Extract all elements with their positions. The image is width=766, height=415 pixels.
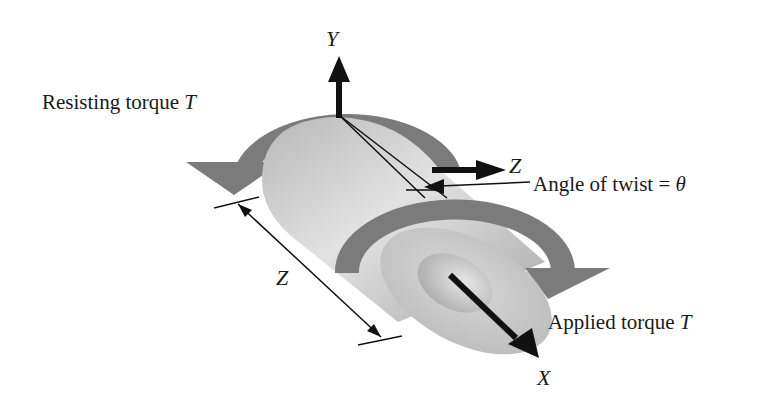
length-z-label: Z: [276, 267, 288, 289]
resisting-torque-text: Resisting torque: [42, 90, 179, 114]
theta-symbol: θ: [676, 172, 686, 196]
applied-torque-text: Applied torque: [548, 310, 675, 334]
applied-torque-label: Applied torque T: [548, 312, 692, 333]
angle-pointer: [424, 179, 530, 194]
y-axis-arrow: [328, 56, 350, 118]
angle-of-twist-label: Angle of twist = θ: [533, 174, 686, 195]
x-axis-label: X: [537, 367, 550, 389]
z-axis-label: Z: [509, 155, 521, 177]
torsion-diagram: [0, 0, 766, 415]
resisting-torque-symbol: T: [184, 90, 196, 114]
y-axis-label: Y: [326, 28, 338, 50]
applied-torque-symbol: T: [680, 310, 692, 334]
resisting-torque-label: Resisting torque T: [42, 92, 196, 113]
angle-of-twist-text: Angle of twist =: [533, 172, 670, 196]
